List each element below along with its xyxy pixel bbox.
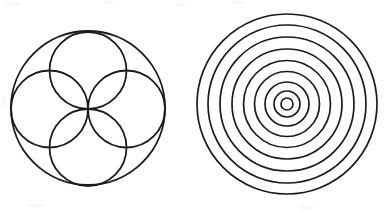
geometric-figures-canvas: [0, 0, 386, 211]
